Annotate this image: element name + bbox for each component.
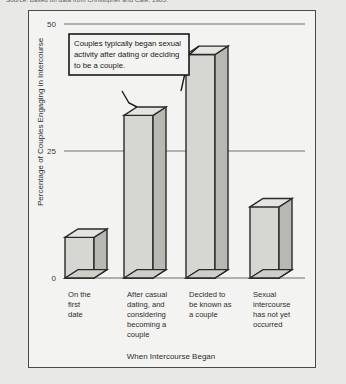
callout-box: Couples typically began sexual activity … — [69, 34, 189, 75]
bar-group-1[interactable] — [65, 229, 107, 278]
cat-3-line-1: Decided to — [189, 290, 225, 299]
category-label-3: Decided to be known as a couple — [189, 290, 232, 319]
bar-group-2[interactable] — [124, 107, 166, 278]
bar-3-side — [215, 46, 228, 278]
cat-1-line-1: On the — [68, 290, 91, 299]
leader-line-to-bar-2 — [122, 91, 137, 107]
bar-3-front — [186, 55, 215, 279]
x-axis-title: When Intercourse Began — [127, 352, 216, 361]
cat-2-line-1: After casual — [127, 290, 167, 299]
category-label-1: On the first date — [68, 290, 91, 319]
callout-line-2: activity after dating or deciding — [74, 50, 179, 59]
callout-line-3: to be a couple. — [74, 61, 125, 70]
cat-2-line-3: considering — [127, 310, 166, 319]
ytick-label-25: 25 — [47, 147, 56, 156]
category-label-2: After casual dating, and considering bec… — [127, 290, 167, 339]
cat-4-line-3: has not yet — [253, 310, 291, 319]
bar-group-4[interactable] — [250, 199, 292, 279]
cat-3-line-3: a couple — [189, 310, 218, 319]
bar-2-side — [153, 107, 166, 278]
bar-chart: 50 25 0 Percentage of Couples Engaging i… — [29, 11, 314, 366]
ytick-label-0: 0 — [52, 274, 57, 283]
bar-4-front — [250, 207, 279, 278]
cat-2-line-2: dating, and — [127, 300, 165, 309]
y-axis-title: Percentage of Couples Engaging in Interc… — [36, 37, 45, 206]
category-label-4: Sexual intercourse has not yet occurred — [253, 290, 291, 329]
cat-4-line-4: occurred — [253, 320, 283, 329]
cat-1-line-3: date — [68, 310, 83, 319]
cat-4-line-2: intercourse — [253, 300, 291, 309]
cat-2-line-5: couple — [127, 330, 149, 339]
bar-2-front — [124, 115, 153, 278]
source-note: Source: Based on data from Christopher a… — [6, 0, 168, 3]
cat-4-line-1: Sexual — [253, 290, 277, 299]
figure-frame: 50 25 0 Percentage of Couples Engaging i… — [28, 10, 316, 368]
cat-1-line-2: first — [68, 300, 81, 309]
bar-4-side — [279, 199, 292, 279]
callout-line-1: Couples typically began sexual — [74, 39, 181, 48]
cat-2-line-4: becoming a — [127, 320, 167, 329]
cat-3-line-2: be known as — [189, 300, 232, 309]
ytick-label-50: 50 — [47, 20, 56, 29]
bar-group-3[interactable] — [186, 46, 228, 278]
